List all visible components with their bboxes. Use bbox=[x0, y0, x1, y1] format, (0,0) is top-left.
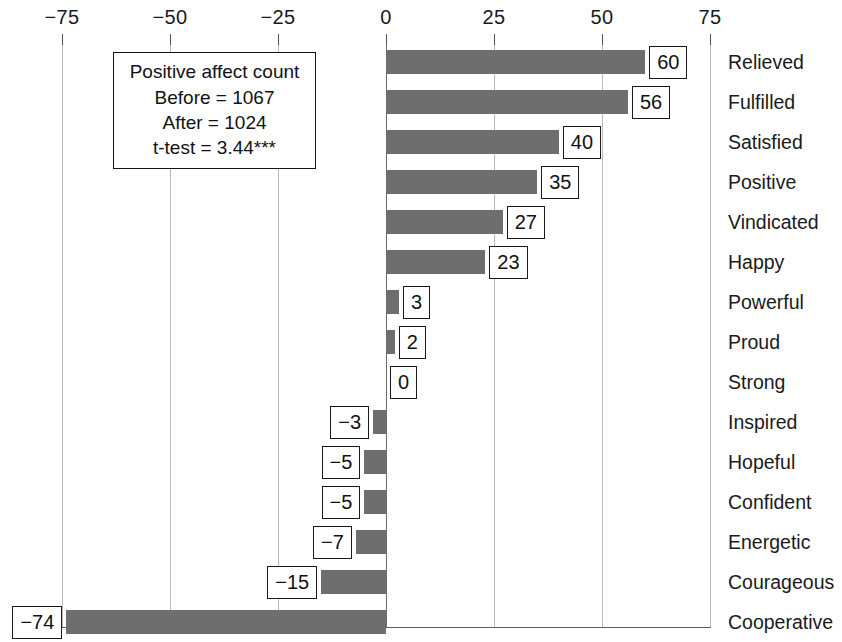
gridline-50 bbox=[602, 44, 603, 628]
bar bbox=[386, 50, 645, 74]
category-label: Vindicated bbox=[728, 211, 819, 234]
x-axis-tick-label: −75 bbox=[45, 6, 80, 29]
category-label: Relieved bbox=[728, 51, 804, 74]
bar-value-label: −5 bbox=[322, 486, 361, 519]
bar-value-label: 3 bbox=[403, 286, 430, 319]
bar-value-label: 56 bbox=[632, 86, 670, 119]
x-axis-tick-label: 75 bbox=[699, 6, 722, 29]
category-label: Proud bbox=[728, 331, 780, 354]
x-tickmark bbox=[62, 34, 63, 45]
category-label: Strong bbox=[728, 371, 785, 394]
bar-value-label: 35 bbox=[541, 166, 579, 199]
bar bbox=[356, 530, 386, 554]
x-axis-tick-label: −50 bbox=[153, 6, 188, 29]
category-label: Courageous bbox=[728, 571, 834, 594]
x-tickmark bbox=[278, 34, 279, 45]
category-label: Cooperative bbox=[728, 611, 833, 634]
bar bbox=[386, 290, 399, 314]
bar bbox=[364, 490, 386, 514]
bar bbox=[364, 450, 386, 474]
bar bbox=[386, 210, 503, 234]
x-axis-tick-label: 0 bbox=[380, 6, 391, 29]
x-axis-tick-label: 25 bbox=[483, 6, 506, 29]
category-label: Energetic bbox=[728, 531, 810, 554]
bar-value-label: −74 bbox=[12, 606, 62, 639]
x-tickmark bbox=[170, 34, 171, 45]
bar-value-label: 60 bbox=[649, 46, 687, 79]
bar bbox=[386, 130, 559, 154]
x-tickmark bbox=[386, 34, 387, 45]
gridline-neg75 bbox=[62, 44, 63, 628]
category-label: Hopeful bbox=[728, 451, 795, 474]
chart-container: −75−50−25025507560Relieved56Fulfilled40S… bbox=[0, 0, 842, 642]
annotation-line-2: After = 1024 bbox=[162, 112, 266, 134]
category-label: Fulfilled bbox=[728, 91, 795, 114]
bar-value-label: −3 bbox=[330, 406, 369, 439]
bar bbox=[321, 570, 386, 594]
bar-value-label: −5 bbox=[322, 446, 361, 479]
annotation-line-1: Before = 1067 bbox=[155, 87, 275, 109]
bar-value-label: 40 bbox=[563, 126, 601, 159]
category-label: Powerful bbox=[728, 291, 804, 314]
bar-value-label: 0 bbox=[390, 366, 417, 399]
bar bbox=[386, 90, 628, 114]
category-label: Satisfied bbox=[728, 131, 803, 154]
bar-value-label: −15 bbox=[267, 566, 317, 599]
bar-value-label: −7 bbox=[313, 526, 352, 559]
annotation-line-3: t-test = 3.44*** bbox=[153, 137, 276, 159]
x-axis-tick-label: −25 bbox=[261, 6, 296, 29]
bar bbox=[66, 610, 386, 634]
bar bbox=[373, 410, 386, 434]
category-label: Inspired bbox=[728, 411, 797, 434]
annotation-line-0: Positive affect count bbox=[130, 61, 300, 83]
x-tickmark bbox=[494, 34, 495, 45]
bar bbox=[386, 170, 537, 194]
bar-value-label: 23 bbox=[489, 246, 527, 279]
bar-value-label: 27 bbox=[507, 206, 545, 239]
category-label: Confident bbox=[728, 491, 811, 514]
x-tickmark bbox=[602, 34, 603, 45]
gridline-75 bbox=[710, 44, 711, 628]
annotation-box: Positive affect count Before = 1067 Afte… bbox=[113, 52, 316, 169]
x-tickmark bbox=[710, 34, 711, 45]
category-label: Positive bbox=[728, 171, 796, 194]
bar bbox=[386, 250, 485, 274]
bar-value-label: 2 bbox=[399, 326, 426, 359]
category-label: Happy bbox=[728, 251, 784, 274]
x-axis-tick-label: 50 bbox=[591, 6, 614, 29]
bar bbox=[386, 330, 395, 354]
